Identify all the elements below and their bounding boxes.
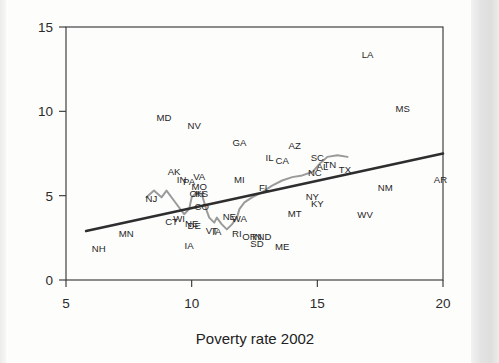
state-label-nj: NJ bbox=[146, 193, 158, 204]
y-tick-label: 10 bbox=[38, 104, 53, 119]
state-label-ia: IA bbox=[212, 226, 222, 237]
state-label-sd: SD bbox=[250, 238, 263, 249]
state-label-ri: RI bbox=[232, 228, 242, 239]
state-label-ms: MS bbox=[396, 103, 410, 114]
state-label-co: CO bbox=[195, 201, 209, 212]
state-label-la: LA bbox=[362, 49, 374, 60]
state-label-ca: CA bbox=[275, 155, 289, 166]
state-label-wv: WV bbox=[357, 209, 373, 220]
x-tick-label: 5 bbox=[62, 296, 70, 311]
state-label-ar: AR bbox=[434, 174, 447, 185]
state-label-az: AZ bbox=[289, 140, 301, 151]
x-axis-tick-labels: 5101520 bbox=[62, 296, 450, 311]
state-label-wi: WI bbox=[173, 213, 185, 224]
chart-svg: 051015 5101520 LAMDMSNVGAAZILCASCALTNNCT… bbox=[0, 0, 499, 363]
state-label-ky: KY bbox=[311, 198, 324, 209]
scatter-plot-figure: 051015 5101520 LAMDMSNVGAAZILCASCALTNNCT… bbox=[0, 0, 499, 363]
x-tick-label: 20 bbox=[435, 296, 450, 311]
state-point-labels: LAMDMSNVGAAZILCASCALTNNCTXAKINPAVAMIMOOH… bbox=[92, 49, 447, 254]
state-label-nh: NH bbox=[92, 243, 106, 254]
state-label-de: DE bbox=[188, 220, 201, 231]
scan-edge-artifact-right bbox=[471, 0, 499, 363]
state-label-mt: MT bbox=[288, 208, 302, 219]
state-label-nm: NM bbox=[378, 182, 393, 193]
state-label-tn: TN bbox=[324, 159, 337, 170]
x-tick-label: 10 bbox=[184, 296, 199, 311]
state-label-tx: TX bbox=[339, 164, 352, 175]
state-label-mi: MI bbox=[234, 174, 245, 185]
y-tick-label: 0 bbox=[45, 273, 53, 288]
x-axis-title: Poverty rate 2002 bbox=[196, 330, 314, 347]
y-tick-label: 15 bbox=[38, 20, 53, 35]
state-label-ia2: IA bbox=[185, 240, 195, 251]
state-label-il: IL bbox=[266, 152, 275, 163]
y-axis-tick-labels: 051015 bbox=[38, 20, 53, 288]
state-label-ga: GA bbox=[232, 137, 246, 148]
state-label-md: MD bbox=[157, 112, 172, 123]
x-tick-label: 15 bbox=[310, 296, 325, 311]
y-tick-label: 5 bbox=[45, 189, 53, 204]
state-label-nv: NV bbox=[188, 120, 202, 131]
state-label-ne2: NE bbox=[223, 211, 236, 222]
state-label-nc: NC bbox=[308, 167, 322, 178]
state-label-ks: KS bbox=[195, 188, 208, 199]
state-label-fl: FL bbox=[259, 182, 271, 193]
state-label-me: ME bbox=[275, 241, 289, 252]
state-label-mn: MN bbox=[119, 228, 134, 239]
